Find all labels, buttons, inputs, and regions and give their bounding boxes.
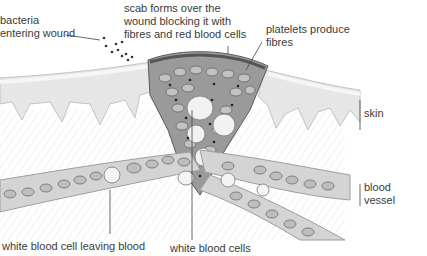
white-cell-leaving-label: white blood cell leaving blood [2, 240, 145, 253]
scab-label: scab forms over the wound blocking it wi… [124, 2, 246, 41]
white-cells-label: white blood cells [170, 242, 251, 255]
bacteria-label: bacteria entering wound [0, 14, 75, 40]
skin-label: skin [364, 107, 384, 120]
blood-vessel-label: blood vessel [364, 181, 395, 207]
platelets-label: platelets produce fibres [266, 23, 350, 49]
